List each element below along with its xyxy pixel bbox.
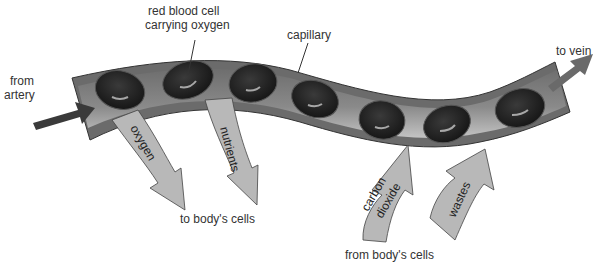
from-artery-label-line2: artery [4, 88, 35, 102]
rbc-label-line1: red blood cell [148, 4, 219, 18]
to-body-cells-label: to body's cells [180, 212, 255, 226]
rbc-label-line2: carrying oxygen [145, 18, 230, 32]
from-body-cells-label: from body's cells [345, 248, 434, 262]
capillary-label: capillary [287, 28, 331, 42]
to-vein-label: to vein [556, 44, 591, 58]
from-artery-label-line1: from [10, 74, 34, 88]
